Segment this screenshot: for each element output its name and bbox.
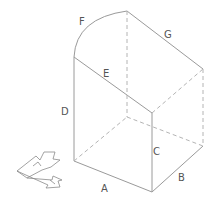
hidden-edge-bottom-left [74, 117, 127, 161]
label-F: F [79, 16, 85, 27]
label-A: A [101, 183, 108, 194]
diagram-canvas: F G E D C A B [0, 0, 216, 202]
orientation-arrows-icon [17, 152, 62, 188]
label-E: E [103, 68, 109, 79]
edge-E [74, 57, 152, 113]
label-B: B [178, 172, 185, 183]
label-G: G [164, 29, 172, 40]
edge-G [127, 11, 203, 69]
label-C: C [153, 146, 160, 157]
edge-A [74, 161, 152, 192]
hidden-edge-bottom-right [127, 117, 203, 146]
hidden-edge-top-back [152, 69, 203, 113]
label-D: D [61, 106, 69, 117]
